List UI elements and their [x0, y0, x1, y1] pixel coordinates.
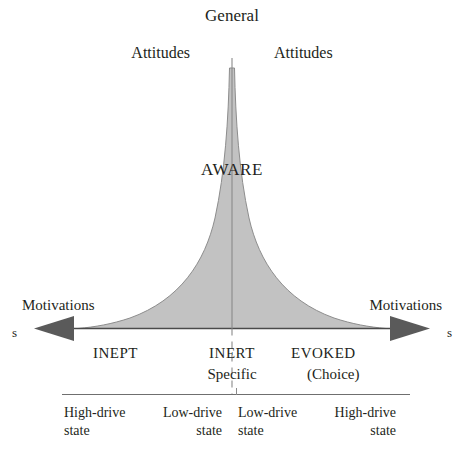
drive-state-word: state — [323, 422, 396, 440]
label-motivations-right: Motivations — [369, 297, 442, 314]
drive-state-rule — [62, 394, 410, 395]
label-choice: (Choice) — [307, 366, 359, 383]
label-axis-end-right: s — [447, 326, 452, 341]
drive-state-label: Low-drive — [163, 405, 222, 420]
label-attitudes-left: Attitudes — [0, 44, 232, 62]
drive-state-cell: Low-drive state — [236, 404, 323, 439]
label-general: General — [0, 6, 464, 25]
drive-state-label: Low-drive — [238, 405, 297, 420]
drive-state-center-tick — [236, 388, 237, 395]
label-axis-end-left: s — [12, 326, 17, 341]
label-specific: Specific — [0, 366, 464, 383]
drive-state-word: state — [149, 422, 222, 440]
drive-state-cell: Low-drive state — [149, 404, 236, 439]
label-inert-set: INERT — [0, 345, 464, 362]
drive-state-table: High-drive state Low-drive state Low-dri… — [62, 394, 410, 439]
label-aware: AWARE — [0, 160, 464, 179]
drive-state-row: High-drive state Low-drive state Low-dri… — [62, 404, 410, 439]
drive-state-label: High-drive — [64, 405, 125, 420]
label-motivations-left: Motivations — [22, 297, 95, 314]
drive-state-cell: High-drive state — [323, 404, 410, 439]
drive-state-label: High-drive — [335, 405, 396, 420]
drive-state-word: state — [64, 422, 149, 440]
drive-state-cell: High-drive state — [62, 404, 149, 439]
right-arrowhead-icon — [390, 316, 430, 341]
drive-state-word: state — [238, 422, 323, 440]
label-evoked-set: EVOKED — [291, 345, 356, 362]
left-arrowhead-icon — [34, 316, 74, 341]
awareness-set-funnel-diagram: General Attitudes Attitudes AWARE Motiva… — [0, 0, 464, 449]
label-attitudes-right: Attitudes — [232, 44, 464, 62]
